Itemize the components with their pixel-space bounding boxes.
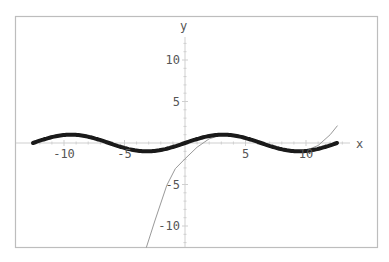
- x-tick-label: -10: [53, 147, 75, 161]
- y-tick-label: 5: [173, 95, 180, 109]
- y-tick-label: -5: [166, 178, 180, 192]
- y-tick-label: 10: [166, 53, 180, 67]
- x-tick-label: -5: [117, 147, 131, 161]
- x-tick-label: 10: [299, 147, 313, 161]
- y-axis-label: y: [180, 19, 187, 33]
- plot: -10-5510105-5-10 x y: [0, 0, 389, 262]
- x-axis-label: x: [356, 137, 363, 151]
- y-tick-label: -10: [158, 219, 180, 233]
- x-tick-label: 5: [242, 147, 249, 161]
- plot-frame: [16, 17, 378, 248]
